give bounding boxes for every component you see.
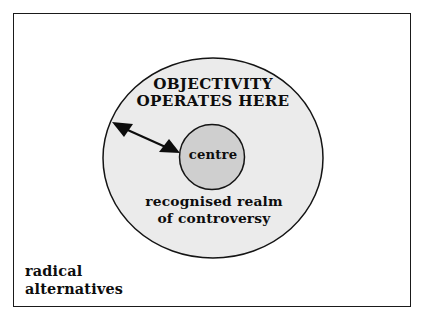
recognised-realm-caption: recognised realm of controversy <box>108 193 320 227</box>
centre-label: centre <box>180 148 246 163</box>
radical-alternatives-label: radical alternatives <box>25 262 205 298</box>
figure-canvas: OBJECTIVITY OPERATES HERE centre recogni… <box>0 0 426 320</box>
objectivity-heading: OBJECTIVITY OPERATES HERE <box>103 76 323 110</box>
